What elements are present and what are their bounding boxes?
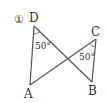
point-label-D: D	[29, 11, 39, 25]
point-label-A: A	[23, 87, 33, 101]
angle-label-C: 50°	[79, 52, 95, 62]
point-label-B: B	[88, 84, 97, 98]
geometry-diagram: ① D C A B 50° 50°	[0, 0, 107, 103]
point-label-C: C	[91, 25, 100, 39]
angle-label-D: 50°	[35, 41, 51, 51]
angle-arc-C	[89, 44, 95, 47]
figure-number-label: ①	[14, 13, 24, 26]
segment-DA	[30, 26, 34, 85]
angle-arc-D	[33, 32, 39, 34]
